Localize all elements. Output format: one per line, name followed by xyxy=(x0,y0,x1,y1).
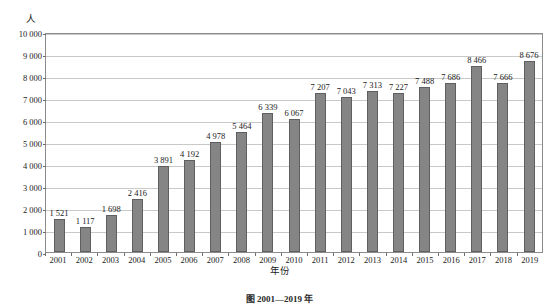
bar-rect xyxy=(236,132,247,252)
bar-rect xyxy=(471,66,482,252)
bar-rect xyxy=(393,93,404,252)
x-axis-labels-group: 2001200220032004200520062007200820092010… xyxy=(45,255,543,265)
bar-value-label: 1 698 xyxy=(102,205,121,214)
x-axis-tick-label: 2009 xyxy=(255,255,281,265)
bar-value-label: 7 043 xyxy=(337,87,356,96)
x-axis-tick-label: 2001 xyxy=(45,255,71,265)
y-axis-tick-label: 3 000 xyxy=(23,184,42,193)
bar-rect xyxy=(289,119,300,252)
x-axis-tick-label: 2017 xyxy=(464,255,490,265)
y-axis-tick-label: 6 000 xyxy=(23,118,42,127)
bar-item: 8 466 xyxy=(464,34,490,252)
bar-rect xyxy=(419,87,430,252)
bar-value-label: 6 339 xyxy=(258,103,277,112)
bar-value-label: 4 978 xyxy=(206,132,225,141)
y-axis-tick-label: 4 000 xyxy=(23,162,42,171)
bar-chart-figure: 人 10 0009 0008 0007 0006 0005 0004 0003 … xyxy=(0,0,559,304)
y-axis-tick-label: 1 000 xyxy=(23,228,42,237)
plot-area: 10 0009 0008 0007 0006 0005 0004 0003 00… xyxy=(45,33,543,253)
bar-item: 1 698 xyxy=(98,34,124,252)
bar-rect xyxy=(367,91,378,252)
bar-value-label: 7 207 xyxy=(311,83,330,92)
x-axis-tick-label: 2003 xyxy=(97,255,123,265)
bar-item: 4 978 xyxy=(203,34,229,252)
figure-caption: 图 2001—2019 年 xyxy=(0,294,559,304)
bar-value-label: 8 676 xyxy=(519,51,538,60)
bar-rect xyxy=(106,215,117,252)
bar-value-label: 5 464 xyxy=(232,122,251,131)
bar-value-label: 1 117 xyxy=(76,217,95,226)
x-axis-tick-label: 2005 xyxy=(150,255,176,265)
x-axis-tick-label: 2002 xyxy=(71,255,97,265)
x-axis-tick-label: 2019 xyxy=(517,255,543,265)
bar-item: 7 207 xyxy=(307,34,333,252)
x-axis-tick-label: 2007 xyxy=(202,255,228,265)
bar-rect xyxy=(54,219,65,252)
bar-value-label: 2 416 xyxy=(128,189,147,198)
x-axis-tick-label: 2010 xyxy=(281,255,307,265)
x-axis-tick-label: 2015 xyxy=(412,255,438,265)
bar-rect xyxy=(210,142,221,252)
bar-item: 8 676 xyxy=(516,34,542,252)
bar-rect xyxy=(497,83,508,252)
y-axis-tick-label: 5 000 xyxy=(23,140,42,149)
y-axis-tick-label: 0 xyxy=(38,250,42,259)
bar-value-label: 8 466 xyxy=(467,56,486,65)
bar-item: 1 117 xyxy=(72,34,98,252)
bar-item: 7 686 xyxy=(438,34,464,252)
bar-rect xyxy=(80,227,91,252)
y-axis-tick-label: 2 000 xyxy=(23,206,42,215)
bar-item: 7 313 xyxy=(359,34,385,252)
bar-rect xyxy=(524,61,535,252)
bar-rect xyxy=(184,160,195,252)
y-axis-unit-label: 人 xyxy=(26,14,36,25)
bar-value-label: 7 488 xyxy=(415,77,434,86)
bar-item: 7 043 xyxy=(333,34,359,252)
bars-group: 1 5211 1171 6982 4163 8914 1924 9785 464… xyxy=(46,34,542,252)
bar-value-label: 3 891 xyxy=(154,156,173,165)
bar-value-label: 7 686 xyxy=(441,73,460,82)
bar-item: 2 416 xyxy=(124,34,150,252)
x-axis-tick-label: 2014 xyxy=(386,255,412,265)
bar-item: 3 891 xyxy=(150,34,176,252)
bar-item: 4 192 xyxy=(177,34,203,252)
x-axis-tick-label: 2018 xyxy=(490,255,516,265)
bar-item: 5 464 xyxy=(229,34,255,252)
y-axis-tick-label: 7 000 xyxy=(23,96,42,105)
y-axis-tick-label: 10 000 xyxy=(19,30,42,39)
y-axis-tick-label: 9 000 xyxy=(23,52,42,61)
bar-value-label: 7 227 xyxy=(389,83,408,92)
bar-rect xyxy=(445,83,456,252)
bar-value-label: 1 521 xyxy=(49,209,68,218)
bar-item: 7 488 xyxy=(412,34,438,252)
bar-item: 6 067 xyxy=(281,34,307,252)
x-axis-tick-label: 2016 xyxy=(438,255,464,265)
x-axis-tick-label: 2013 xyxy=(359,255,385,265)
x-axis-tick-label: 2006 xyxy=(176,255,202,265)
bar-value-label: 4 192 xyxy=(180,150,199,159)
bar-item: 7 227 xyxy=(385,34,411,252)
bar-rect xyxy=(132,199,143,252)
bar-item: 1 521 xyxy=(46,34,72,252)
bar-value-label: 6 067 xyxy=(284,109,303,118)
x-axis-tick-label: 2004 xyxy=(124,255,150,265)
bar-value-label: 7 666 xyxy=(493,73,512,82)
bar-value-label: 7 313 xyxy=(363,81,382,90)
x-axis-tick-label: 2012 xyxy=(333,255,359,265)
y-axis-tick-label: 8 000 xyxy=(23,74,42,83)
x-axis-tick-label: 2011 xyxy=(307,255,333,265)
x-axis-title: 年份 xyxy=(0,266,559,277)
bar-item: 7 666 xyxy=(490,34,516,252)
bar-rect xyxy=(315,93,326,252)
bar-rect xyxy=(262,113,273,252)
bar-rect xyxy=(158,166,169,252)
x-axis-tick-label: 2008 xyxy=(228,255,254,265)
bar-rect xyxy=(341,97,352,252)
bar-item: 6 339 xyxy=(255,34,281,252)
